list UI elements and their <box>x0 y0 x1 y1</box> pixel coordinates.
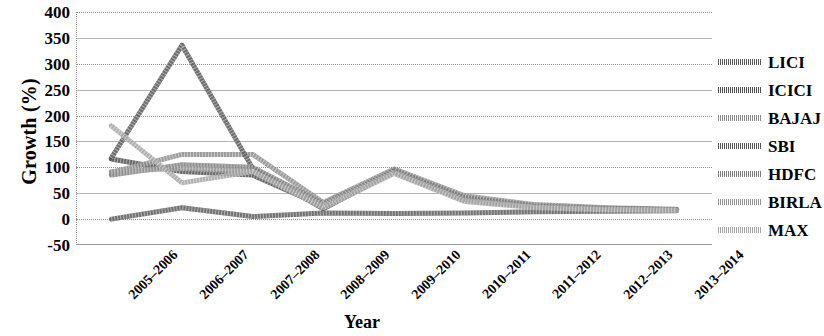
legend-item-birla[interactable]: BIRLA <box>718 188 824 216</box>
legend-label: ICICI <box>768 82 812 99</box>
legend-label: LICI <box>768 54 805 71</box>
series-lines <box>76 12 712 245</box>
legend-label: HDFC <box>768 166 816 183</box>
y-tick-label: 200 <box>8 108 70 125</box>
chart-legend: LICIICICIBAJAJSBIHDFCBIRLAMAX <box>718 48 824 244</box>
x-axis-tick-labels: 2005–20062006–20072007–20082008–20092009… <box>76 247 712 309</box>
legend-item-max[interactable]: MAX <box>718 216 824 244</box>
legend-swatch <box>718 115 762 121</box>
y-tick-label: 100 <box>8 159 70 176</box>
x-tick-label: 2010–2011 <box>479 247 534 302</box>
legend-item-icici[interactable]: ICICI <box>718 76 824 104</box>
growth-line-chart: Growth (%) 400350300250200150100500-50 2… <box>0 0 824 336</box>
series-line <box>111 45 676 210</box>
x-tick-label: 2008–2009 <box>338 247 394 303</box>
legend-label: SBI <box>768 138 795 155</box>
y-tick-label: 300 <box>8 56 70 73</box>
legend-label: BIRLA <box>768 194 822 211</box>
x-tick-label: 2007–2008 <box>267 247 323 303</box>
y-tick-label: 350 <box>8 30 70 47</box>
legend-item-bajaj[interactable]: BAJAJ <box>718 104 824 132</box>
legend-swatch <box>718 87 762 93</box>
y-tick-label: 0 <box>8 211 70 228</box>
x-tick-label: 2012–2013 <box>620 247 676 303</box>
plot-area <box>76 12 712 245</box>
legend-swatch <box>718 227 762 233</box>
legend-item-lici[interactable]: LICI <box>718 48 824 76</box>
x-tick-label: 2006–2007 <box>196 247 252 303</box>
legend-label: MAX <box>768 222 809 239</box>
x-tick-label: 2013–2014 <box>691 247 747 303</box>
x-tick-label: 2011–2012 <box>550 247 605 302</box>
x-axis-title: Year <box>0 312 724 333</box>
legend-label: BAJAJ <box>768 110 821 127</box>
y-tick-label: -50 <box>8 237 70 254</box>
y-tick-label: 150 <box>8 133 70 150</box>
y-tick-label: 50 <box>8 185 70 202</box>
legend-swatch <box>718 199 762 205</box>
x-tick-label: 2005–2006 <box>126 247 182 303</box>
legend-swatch <box>718 143 762 149</box>
legend-item-sbi[interactable]: SBI <box>718 132 824 160</box>
x-tick-label: 2009–2010 <box>408 247 464 303</box>
y-axis-tick-labels: 400350300250200150100500-50 <box>4 12 70 245</box>
y-tick-label: 250 <box>8 82 70 99</box>
legend-item-hdfc[interactable]: HDFC <box>718 160 824 188</box>
y-tick-label: 400 <box>8 4 70 21</box>
legend-swatch <box>718 59 762 65</box>
legend-swatch <box>718 171 762 177</box>
